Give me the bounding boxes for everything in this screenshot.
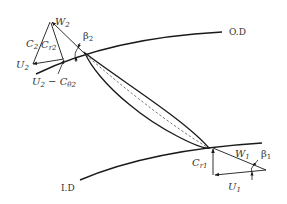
cr2-label: Cr2 xyxy=(41,39,57,52)
inner-diameter-label: I.D xyxy=(61,183,75,193)
u2-label: U2 xyxy=(16,59,29,72)
beta1-label: β1 xyxy=(261,148,271,161)
beta2-label: β2 xyxy=(83,30,93,43)
blade-camber-line xyxy=(86,55,207,147)
u1-label: U1 xyxy=(228,181,241,194)
velocity-triangle-diagram: O.D I.D W2 C2 Cr2 U2 U2 − Cθ2 β2 xyxy=(0,0,287,204)
blade-profile xyxy=(85,53,209,148)
u2-minus-ctheta2-label: U2 − Cθ2 xyxy=(32,76,77,89)
c2-label: C2 xyxy=(26,38,39,51)
cr1-label: Cr1 xyxy=(192,157,207,170)
outer-diameter-line xyxy=(36,32,222,74)
outer-diameter-label: O.D xyxy=(229,27,246,37)
w1-label: W1 xyxy=(235,148,250,161)
